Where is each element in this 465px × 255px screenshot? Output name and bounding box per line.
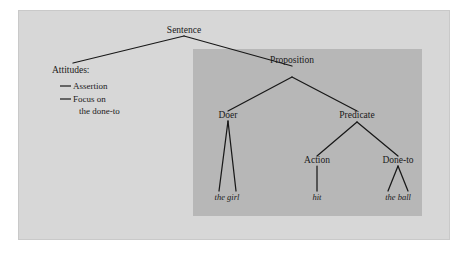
leaf-the-girl: the girl xyxy=(215,192,240,202)
attitudes-heading: Attitudes: xyxy=(52,65,89,75)
figure-frame: Sentence Proposition Doer Predicate Acti… xyxy=(18,10,450,240)
node-proposition: Proposition xyxy=(270,55,314,65)
edge-done-to-the-ball-left xyxy=(388,166,398,191)
edge-doer-the-girl-right xyxy=(228,121,236,191)
node-doer: Doer xyxy=(219,110,239,120)
attitudes-item-focus-line1: Focus on xyxy=(73,94,106,104)
edge-predicate-done-to xyxy=(357,122,398,156)
node-action: Action xyxy=(304,155,330,165)
leaf-hit: hit xyxy=(313,192,323,202)
node-done-to: Done-to xyxy=(382,155,413,165)
edge-proposition-doer xyxy=(228,77,292,111)
sentence-tree-diagram: Sentence Proposition Doer Predicate Acti… xyxy=(19,11,451,241)
edge-predicate-action xyxy=(317,122,357,156)
edge-sentence-attitudes xyxy=(73,36,184,63)
node-sentence: Sentence xyxy=(167,25,201,35)
node-predicate: Predicate xyxy=(339,110,374,120)
leaf-the-ball: the ball xyxy=(385,192,411,202)
edge-proposition-predicate xyxy=(292,77,357,111)
attitudes-item-focus-line2: the done-to xyxy=(79,106,120,116)
edge-done-to-the-ball-right xyxy=(398,166,408,191)
figure-page: Sentence Proposition Doer Predicate Acti… xyxy=(0,0,465,255)
attitudes-item-assertion: Assertion xyxy=(73,81,108,91)
edge-doer-the-girl-left xyxy=(219,121,228,191)
